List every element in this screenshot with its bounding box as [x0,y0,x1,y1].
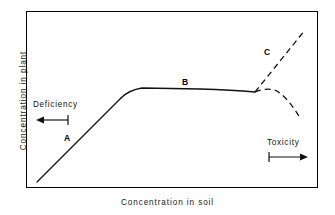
curve-label-c: C [264,47,270,57]
x-axis-title: Concentration in soil [0,198,335,207]
curve-label-a: A [64,133,70,143]
deficiency-label: Deficiency [33,100,78,109]
figure-container: Concentration in plant Concentration in … [0,0,335,215]
y-axis-title: Concentration in plant [19,16,28,186]
curve-label-b: B [182,77,188,87]
toxicity-label: Toxicity [267,138,299,147]
